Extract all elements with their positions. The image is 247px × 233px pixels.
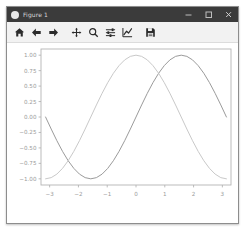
minimize-button[interactable] [178,7,198,22]
close-button[interactable] [218,7,238,22]
svg-text:2: 2 [192,191,196,197]
matplotlib-axes: −3−2−101231.000.750.500.250.00−0.25−0.50… [7,43,238,223]
svg-text:−1.00: −1.00 [19,176,37,182]
maximize-button[interactable] [198,7,218,22]
zoom-button[interactable] [85,24,102,41]
magnifier-icon [88,27,99,38]
data-lines [46,55,227,179]
tick-marks [39,55,223,187]
navigation-toolbar [7,22,238,43]
move-icon [71,27,82,38]
arrow-right-icon [48,27,59,38]
figure-window: Figure 1 [6,6,239,224]
svg-text:0.00: 0.00 [24,114,37,120]
svg-text:0: 0 [134,191,138,197]
line-chart-icon [122,27,133,38]
pan-button[interactable] [68,24,85,41]
tick-labels: −3−2−101231.000.750.500.250.00−0.25−0.50… [19,52,224,196]
floppy-disk-icon [145,27,156,38]
svg-text:0.50: 0.50 [24,83,37,89]
svg-text:−2: −2 [74,191,82,197]
forward-button[interactable] [45,24,62,41]
back-button[interactable] [28,24,45,41]
arrow-left-icon [31,27,42,38]
svg-text:3: 3 [221,191,225,197]
save-button[interactable] [142,24,159,41]
figure-canvas[interactable]: −3−2−101231.000.750.500.250.00−0.25−0.50… [7,43,238,223]
svg-text:−0.50: −0.50 [19,145,37,151]
svg-text:−0.25: −0.25 [19,129,37,135]
home-button[interactable] [11,24,28,41]
subplots-button[interactable] [102,24,119,41]
svg-text:−1: −1 [103,191,112,197]
title-bar[interactable]: Figure 1 [7,7,238,22]
svg-text:0.75: 0.75 [24,68,37,74]
customize-button[interactable] [119,24,136,41]
svg-text:−3: −3 [46,191,55,197]
matplotlib-icon [11,11,19,19]
svg-text:0.25: 0.25 [24,99,37,105]
sliders-icon [105,27,116,38]
window-title: Figure 1 [23,11,48,18]
svg-text:1.00: 1.00 [24,52,37,58]
window-controls [178,7,238,22]
home-icon [14,27,25,38]
svg-text:1: 1 [163,191,167,197]
svg-text:−0.75: −0.75 [19,160,37,166]
